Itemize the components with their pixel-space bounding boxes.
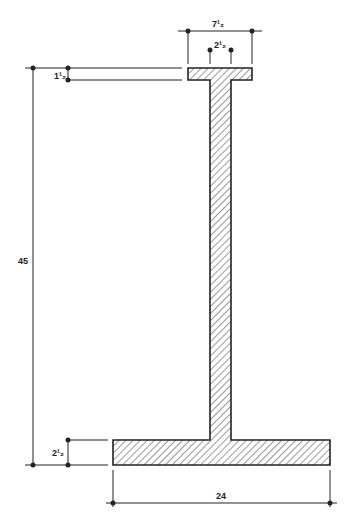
bottom-flange-thickness-label: 2¹₂ bbox=[52, 448, 64, 458]
bottom-flange-width-label: 24 bbox=[216, 491, 226, 501]
top-flange-width-label: 7¹₂ bbox=[212, 19, 224, 29]
beam-section bbox=[113, 68, 330, 465]
overall-height-label: 45 bbox=[18, 256, 28, 266]
top-flange-thickness-label: 1¹₂ bbox=[54, 71, 66, 81]
i-beam-section-drawing: 7¹₂ 2¹₂ 1¹₂ 45 2¹₂ 24 bbox=[0, 0, 353, 527]
web-thickness-label: 2¹₂ bbox=[214, 40, 226, 50]
